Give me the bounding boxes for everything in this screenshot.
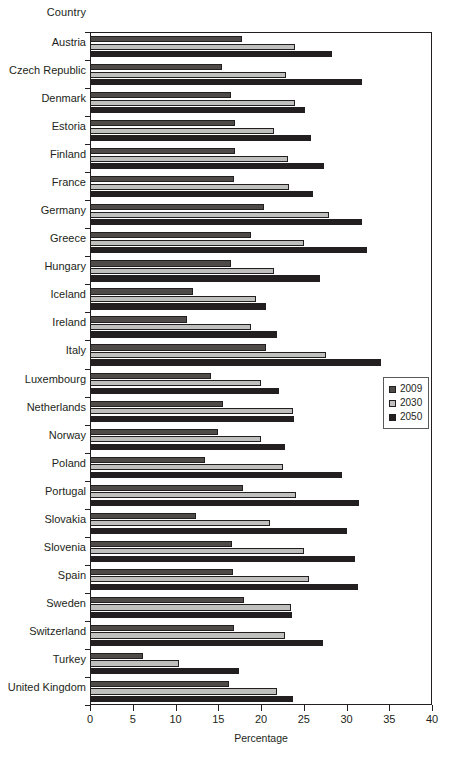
bar-austria-2050	[90, 51, 332, 57]
x-axis-title: Percentage	[90, 732, 432, 744]
bar-spain-2050	[90, 584, 358, 590]
bar-czech-republic-2030	[90, 72, 286, 78]
y-axis-tick	[85, 509, 91, 510]
bar-france-2009	[90, 176, 234, 182]
y-axis-label-iceland: Iceland	[0, 289, 86, 300]
y-axis-label-netherlands: Netherlands	[0, 402, 86, 413]
bar-czech-republic-2050	[90, 79, 362, 85]
bar-norway-2009	[90, 429, 218, 435]
bar-turkey-2009	[90, 653, 143, 659]
bar-greece-2050	[90, 247, 367, 253]
bar-portugal-2050	[90, 500, 359, 506]
bar-sweden-2050	[90, 612, 292, 618]
y-axis-tick	[85, 88, 91, 89]
bar-netherlands-2050	[90, 416, 294, 422]
y-axis-tick	[85, 312, 91, 313]
bar-slovenia-2030	[90, 548, 304, 554]
x-axis-tick-label: 10	[161, 713, 191, 725]
bar-italy-2030	[90, 352, 326, 358]
x-axis-tick-label: 0	[75, 713, 105, 725]
y-axis-tick	[85, 172, 91, 173]
bar-united-kingdom-2030	[90, 688, 277, 694]
y-axis-tick	[85, 256, 91, 257]
legend-item-2009: 2009	[389, 382, 422, 396]
bar-finland-2009	[90, 148, 235, 154]
x-axis-tick	[176, 705, 177, 711]
bar-group	[90, 172, 432, 200]
bar-group	[90, 369, 432, 397]
bar-united-kingdom-2050	[90, 696, 293, 702]
bar-poland-2009	[90, 457, 205, 463]
bar-ireland-2009	[90, 316, 187, 322]
x-axis-tick-label: 35	[374, 713, 404, 725]
y-axis-label-czech-republic: Czech Republic	[0, 65, 86, 76]
bar-denmark-2009	[90, 92, 231, 98]
bar-group	[90, 621, 432, 649]
y-axis-label-spain: Spain	[0, 570, 86, 581]
bar-luxembourg-2030	[90, 380, 261, 386]
x-axis-tick-label: 15	[203, 713, 233, 725]
y-axis-label-norway: Norway	[0, 430, 86, 441]
y-axis-label-united-kingdom: United Kingdom	[0, 682, 86, 693]
y-axis-tick	[85, 593, 91, 594]
y-axis-tick	[85, 621, 91, 622]
y-axis-tick	[85, 369, 91, 370]
bar-group	[90, 32, 432, 60]
y-axis-tick	[85, 32, 91, 33]
y-axis-tick	[85, 565, 91, 566]
bar-ireland-2030	[90, 324, 251, 330]
bar-germany-2050	[90, 219, 362, 225]
bar-group	[90, 312, 432, 340]
legend-swatch-2050	[389, 414, 396, 421]
y-axis-tick	[85, 537, 91, 538]
bar-ireland-2050	[90, 331, 277, 337]
y-axis-label-switzerland: Switzerland	[0, 626, 86, 637]
x-axis-tick-label: 40	[417, 713, 447, 725]
bar-group	[90, 453, 432, 481]
y-axis-tick	[85, 649, 91, 650]
bar-group	[90, 228, 432, 256]
bar-group	[90, 481, 432, 509]
y-axis-label-turkey: Turkey	[0, 654, 86, 665]
y-axis-label-germany: Germany	[0, 205, 86, 216]
bar-switzerland-2030	[90, 632, 285, 638]
bar-greece-2009	[90, 232, 251, 238]
x-axis-tick-label: 5	[118, 713, 148, 725]
y-axis-label-slovakia: Slovakia	[0, 514, 86, 525]
bar-hungary-2009	[90, 260, 231, 266]
y-axis-tick	[85, 200, 91, 201]
bar-netherlands-2030	[90, 408, 293, 414]
bar-group	[90, 340, 432, 368]
bar-hungary-2050	[90, 275, 320, 281]
y-axis-tick	[85, 144, 91, 145]
bar-portugal-2009	[90, 485, 243, 491]
bar-italy-2009	[90, 344, 266, 350]
bar-group	[90, 537, 432, 565]
legend-label-2050: 2050	[400, 412, 422, 422]
bar-denmark-2030	[90, 100, 295, 106]
bar-group	[90, 509, 432, 537]
y-axis-tick	[85, 425, 91, 426]
x-axis-tick	[90, 705, 91, 711]
bar-united-kingdom-2009	[90, 681, 229, 687]
y-axis-tick	[85, 116, 91, 117]
y-axis-tick	[85, 481, 91, 482]
y-axis-label-austria: Austria	[0, 37, 86, 48]
bar-hungary-2030	[90, 268, 274, 274]
y-axis-tick	[85, 453, 91, 454]
legend-swatch-2009	[389, 386, 396, 393]
y-axis-label-greece: Greece	[0, 233, 86, 244]
legend-item-2030: 2030	[389, 396, 422, 410]
bar-slovakia-2050	[90, 528, 347, 534]
y-axis-label-estoria: Estoria	[0, 121, 86, 132]
bar-sweden-2030	[90, 604, 291, 610]
y-axis-label-poland: Poland	[0, 458, 86, 469]
bar-norway-2030	[90, 436, 261, 442]
bar-finland-2030	[90, 156, 288, 162]
y-axis-label-portugal: Portugal	[0, 486, 86, 497]
bar-luxembourg-2009	[90, 373, 211, 379]
bar-sweden-2009	[90, 597, 244, 603]
bar-germany-2030	[90, 212, 329, 218]
bar-spain-2030	[90, 576, 309, 582]
x-axis-tick	[389, 705, 390, 711]
